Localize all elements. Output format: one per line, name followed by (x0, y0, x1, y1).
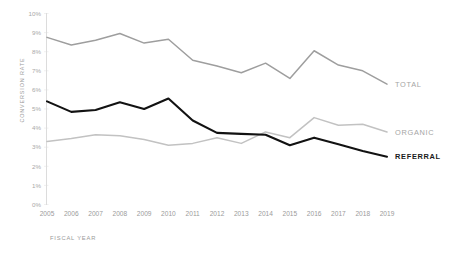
series-label-referral: REFERRAL (395, 152, 441, 161)
series-line-organic (47, 118, 387, 146)
x-tick-label: 2012 (210, 210, 225, 217)
x-tick-label: 2009 (137, 210, 152, 217)
x-tick-label: 2014 (258, 210, 273, 217)
y-tick-label: 2% (32, 163, 41, 170)
x-tick-label: 2010 (161, 210, 176, 217)
series-label-total: TOTAL (395, 80, 422, 89)
y-tick-label: 8% (32, 48, 41, 55)
y-tick-label: 1% (32, 182, 41, 189)
y-tick-label: 5% (32, 105, 41, 112)
series-labels-group: TOTALORGANICREFERRAL (395, 80, 441, 162)
chart-canvas: 0%1%2%3%4%5%6%7%8%9%10% 2005200620072008… (0, 0, 453, 254)
series-line-total (47, 34, 387, 85)
series-line-referral (47, 99, 387, 157)
y-axis-tick-labels: 0%1%2%3%4%5%6%7%8%9%10% (29, 10, 42, 208)
x-axis-title: FISCAL YEAR (50, 235, 96, 241)
x-tick-label: 2017 (331, 210, 346, 217)
x-axis-tick-labels: 2005200620072008200920102011201220132014… (40, 210, 395, 217)
x-tick-label: 2006 (64, 210, 79, 217)
series-label-organic: ORGANIC (395, 128, 434, 137)
x-tick-label: 2005 (40, 210, 55, 217)
y-tick-label: 10% (29, 10, 42, 17)
x-tick-label: 2008 (113, 210, 128, 217)
x-tick-label: 2007 (88, 210, 103, 217)
x-tick-label: 2016 (307, 210, 322, 217)
x-tick-label: 2019 (380, 210, 395, 217)
x-tick-label: 2018 (355, 210, 370, 217)
x-tick-label: 2015 (283, 210, 298, 217)
y-tick-label: 6% (32, 86, 41, 93)
y-tick-label: 9% (32, 29, 41, 36)
x-tick-label: 2011 (186, 210, 201, 217)
y-axis-title: CONVERSION RATE (19, 57, 25, 122)
y-tick-label: 4% (32, 124, 41, 131)
y-tick-label: 7% (32, 67, 41, 74)
y-tick-label: 0% (32, 201, 41, 208)
series-lines-group (47, 34, 387, 157)
x-tick-label: 2013 (234, 210, 249, 217)
y-tick-label: 3% (32, 143, 41, 150)
conversion-rate-line-chart: 0%1%2%3%4%5%6%7%8%9%10% 2005200620072008… (0, 0, 453, 254)
